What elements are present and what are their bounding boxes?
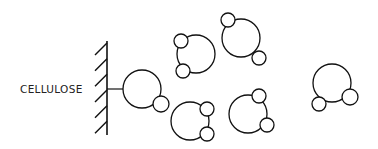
- hydrogen-atom: [252, 89, 266, 103]
- hydrogen-atom: [200, 102, 214, 116]
- hatch-mark: [95, 121, 107, 133]
- hatch-mark: [95, 59, 107, 71]
- molecule-free-2: [221, 13, 266, 65]
- molecule-tethered: [123, 70, 169, 112]
- molecule-free-5: [312, 64, 358, 111]
- hydrogen-atom: [176, 64, 190, 78]
- molecule-free-1: [174, 34, 215, 78]
- hydrogen-atom: [342, 89, 358, 105]
- hatch-mark: [95, 90, 107, 102]
- molecule-free-4: [229, 89, 274, 133]
- hydrogen-atom: [153, 96, 169, 112]
- hydrogen-atom: [221, 13, 235, 27]
- hatch-mark: [95, 74, 107, 86]
- water-molecules: [123, 13, 358, 141]
- molecule-free-3: [171, 102, 214, 141]
- hydrogen-atom: [260, 118, 274, 132]
- hydrogen-atom: [174, 34, 188, 48]
- cellulose-adsorption-diagram: [0, 0, 378, 149]
- hydrogen-atom: [252, 51, 266, 65]
- cellulose-surface-wall: [95, 41, 107, 135]
- hydrogen-atom: [200, 127, 214, 141]
- hydrogen-atom: [312, 97, 326, 111]
- hatch-mark: [95, 106, 107, 118]
- hatch-mark: [95, 43, 107, 55]
